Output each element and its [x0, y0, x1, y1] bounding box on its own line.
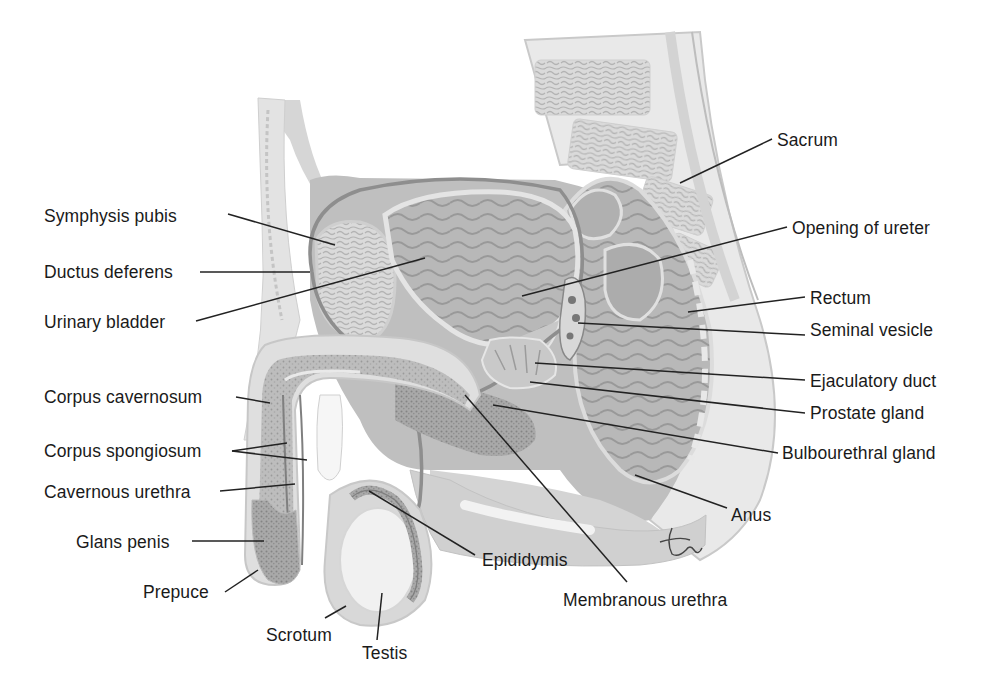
symphysis-pubis-shape — [316, 221, 395, 340]
label-cavernous-urethra: Cavernous urethra — [44, 482, 191, 502]
label-anus: Anus — [731, 505, 771, 525]
label-ejaculatory-duct: Ejaculatory duct — [810, 371, 936, 391]
label-membranous-urethra: Membranous urethra — [563, 590, 727, 610]
leader-prepuce — [225, 570, 258, 592]
label-symphysis-pubis: Symphysis pubis — [44, 206, 177, 226]
label-seminal-vesicle: Seminal vesicle — [810, 320, 933, 340]
label-prostate-gland: Prostate gland — [810, 403, 924, 423]
label-testis: Testis — [362, 643, 407, 663]
label-sacrum: Sacrum — [777, 130, 838, 150]
label-opening-of-ureter: Opening of ureter — [792, 218, 930, 238]
label-bulbourethral-gland: Bulbourethral gland — [782, 443, 936, 463]
label-corpus-spongiosum: Corpus spongiosum — [44, 441, 201, 461]
label-rectum: Rectum — [810, 288, 871, 308]
prostate-shape — [482, 338, 556, 389]
anatomy-figure: Symphysis pubis Ductus deferens Urinary … — [0, 0, 985, 685]
scrotum-testis-shape — [324, 481, 431, 626]
label-prepuce: Prepuce — [143, 582, 209, 602]
label-epididymis: Epididymis — [482, 550, 568, 570]
label-glans-penis: Glans penis — [76, 532, 170, 552]
label-urinary-bladder: Urinary bladder — [44, 312, 165, 332]
label-ductus-deferens: Ductus deferens — [44, 262, 173, 282]
label-corpus-cavernosum: Corpus cavernosum — [44, 387, 202, 407]
label-scrotum: Scrotum — [266, 625, 332, 645]
